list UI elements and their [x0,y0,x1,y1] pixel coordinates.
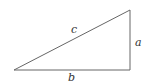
label-hypotenuse: c [71,23,77,36]
right-triangle [14,10,130,70]
triangle-diagram: c a b [0,0,152,83]
label-base: b [68,71,75,83]
label-vertical-leg: a [135,36,142,49]
